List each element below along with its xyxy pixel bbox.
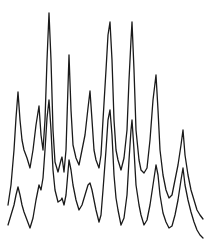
chart-plot-area — [0, 0, 211, 241]
upper-trace-line — [8, 13, 203, 219]
